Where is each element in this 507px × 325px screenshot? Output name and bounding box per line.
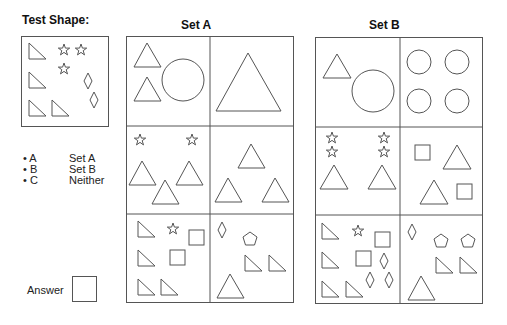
shapes-canvas (0, 0, 507, 325)
test-shape-figures (29, 43, 98, 116)
